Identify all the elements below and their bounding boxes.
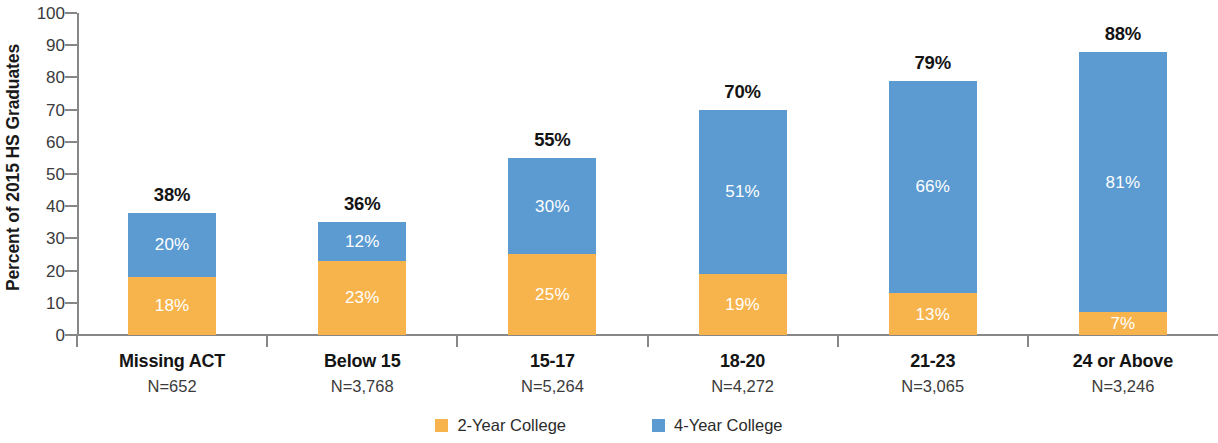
bar-segment-label: 51% [725,183,760,200]
bar-segment-2-year-college[interactable]: 18% [128,277,216,335]
orange-square-swatch-icon [435,419,448,432]
legend-item[interactable]: 2-Year College [435,417,566,434]
y-axis-tick-label: 10 [21,295,65,312]
x-axis-category-sample-size: N=652 [77,378,267,395]
x-axis-category: 15-17N=5,264 [457,352,647,395]
bar-stack[interactable]: 66%13% [889,81,977,335]
bar-total-label: 88% [1079,25,1167,44]
bar-stack[interactable]: 30%25% [508,158,596,335]
bar-stack[interactable]: 20%18% [128,213,216,335]
stacked-bar-chart: Percent of 2015 HS Graduates 10090807060… [0,0,1218,443]
x-axis-category-name: 21-23 [838,352,1028,370]
y-axis-tick [65,302,77,304]
x-axis-category-sample-size: N=3,768 [267,378,457,395]
bar-segment-2-year-college[interactable]: 23% [318,261,406,335]
bar-segment-label: 7% [1110,315,1135,332]
x-axis-category-name: 24 or Above [1028,352,1218,370]
y-axis-tick-label: 40 [21,198,65,215]
x-axis-tick [456,336,458,347]
y-axis-tick [65,44,77,46]
y-axis-tick-label: 70 [21,102,65,119]
x-axis-category-name: Missing ACT [77,352,267,370]
y-axis-line [77,13,79,335]
y-axis-tick [65,141,77,143]
x-axis-category: Below 15N=3,768 [267,352,457,395]
bar-segment-label: 81% [1106,174,1141,191]
y-axis-tick [65,109,77,111]
legend-item[interactable]: 4-Year College [652,417,783,434]
y-axis-tick [65,173,77,175]
bar-segment-label: 25% [535,286,570,303]
bar-segment-label: 19% [725,296,760,313]
x-axis-category-name: 15-17 [457,352,647,370]
bar-segment-4-year-college[interactable]: 12% [318,222,406,261]
bar-segment-label: 23% [345,289,380,306]
bar-total-label: 36% [318,195,406,214]
y-axis-tick [65,76,77,78]
y-axis-tick-label: 0 [21,327,65,344]
bar-segment-4-year-college[interactable]: 30% [508,158,596,255]
x-axis-category-sample-size: N=3,065 [838,378,1028,395]
x-axis-tick [647,336,649,347]
x-axis-category: 24 or AboveN=3,246 [1028,352,1218,395]
bar-segment-label: 30% [535,198,570,215]
bar-total-label: 55% [508,131,596,150]
x-axis-category-name: 18-20 [648,352,838,370]
bar-total-label: 70% [699,83,787,102]
bar-segment-2-year-college[interactable]: 19% [699,274,787,335]
bar-segment-4-year-college[interactable]: 20% [128,213,216,277]
bar-stack[interactable]: 81%7% [1079,52,1167,335]
y-axis-tick [65,205,77,207]
x-axis-category-sample-size: N=3,246 [1028,378,1218,395]
y-axis-tick-label: 80 [21,69,65,86]
bar-stack[interactable]: 12%23% [318,222,406,335]
bar-segment-label: 66% [915,178,950,195]
y-axis-tick-label: 90 [21,37,65,54]
x-axis-category-sample-size: N=4,272 [648,378,838,395]
y-axis-tick [65,237,77,239]
y-axis-tick [65,12,77,14]
y-axis-tick-label: 20 [21,263,65,280]
bar-segment-2-year-college[interactable]: 25% [508,254,596,335]
legend-label: 2-Year College [457,417,566,434]
x-axis-tick [266,336,268,347]
bar-segment-label: 12% [345,233,380,250]
x-axis-category: 18-20N=4,272 [648,352,838,395]
x-axis-tick [76,336,78,347]
bar-total-label: 38% [128,186,216,205]
x-axis-category: 21-23N=3,065 [838,352,1028,395]
bar-segment-4-year-college[interactable]: 81% [1079,52,1167,313]
bar-segment-2-year-college[interactable]: 7% [1079,312,1167,335]
y-axis-tick-label: 30 [21,230,65,247]
x-axis-category: Missing ACTN=652 [77,352,267,395]
y-axis-tick [65,270,77,272]
chart-legend: 2-Year College4-Year College [0,417,1218,434]
blue-square-swatch-icon [652,419,665,432]
x-axis-tick [1027,336,1029,347]
bar-total-label: 79% [889,54,977,73]
x-axis-tick [837,336,839,347]
bar-segment-2-year-college[interactable]: 13% [889,293,977,335]
bar-segment-label: 13% [915,306,950,323]
bar-segment-4-year-college[interactable]: 51% [699,110,787,274]
bar-segment-label: 20% [155,236,190,253]
x-axis-category-sample-size: N=5,264 [457,378,647,395]
bar-segment-label: 18% [155,297,190,314]
x-axis-category-name: Below 15 [267,352,457,370]
y-axis-tick-label: 60 [21,134,65,151]
bar-stack[interactable]: 51%19% [699,110,787,335]
legend-label: 4-Year College [674,417,783,434]
y-axis-tick-label: 100 [21,5,65,22]
y-axis-tick-label: 50 [21,166,65,183]
bar-segment-4-year-college[interactable]: 66% [889,81,977,294]
